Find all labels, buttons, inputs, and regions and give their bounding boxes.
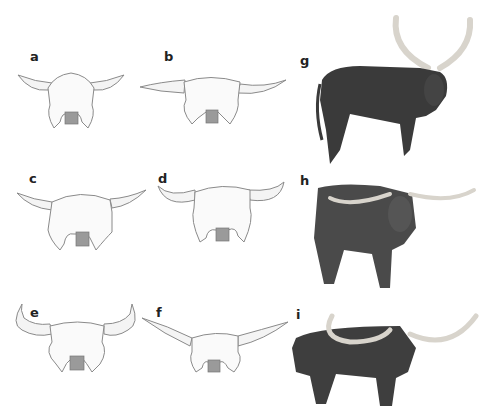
panel-e: e (0, 300, 150, 400)
panel-f: f (140, 300, 290, 400)
photo-cow-g (300, 0, 492, 165)
skull-drawing-c (0, 160, 150, 270)
photo-longhorn-h (300, 168, 492, 300)
panel-c: c (0, 160, 150, 270)
photo-longhorn-i (280, 298, 492, 419)
panel-b: b (140, 40, 300, 150)
skull-drawing-f (140, 300, 290, 400)
panel-a: a (0, 40, 150, 150)
skull-drawing-e (0, 300, 150, 400)
skull-drawing-d (150, 160, 300, 270)
panel-h: h (300, 168, 492, 300)
skull-drawing-a (0, 40, 150, 150)
panel-i: i (280, 298, 492, 419)
panel-g: g (300, 0, 492, 165)
skull-drawing-b (140, 40, 300, 150)
panel-d: d (150, 160, 300, 270)
